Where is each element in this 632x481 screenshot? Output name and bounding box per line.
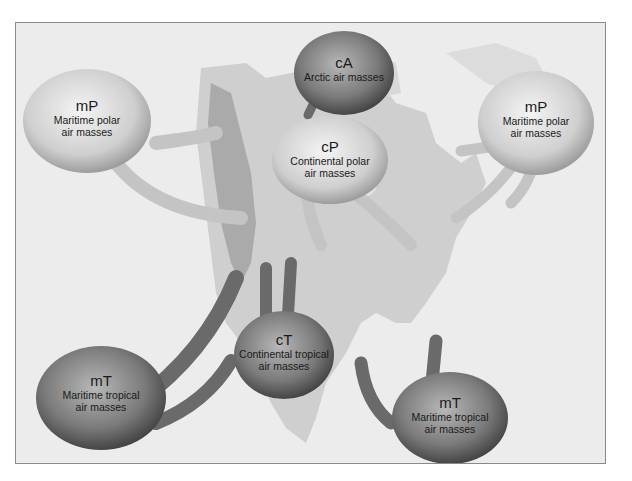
map-graphic xyxy=(16,23,605,463)
air-mass-map: mP Maritime polar air masses cA Arctic a… xyxy=(15,22,606,464)
